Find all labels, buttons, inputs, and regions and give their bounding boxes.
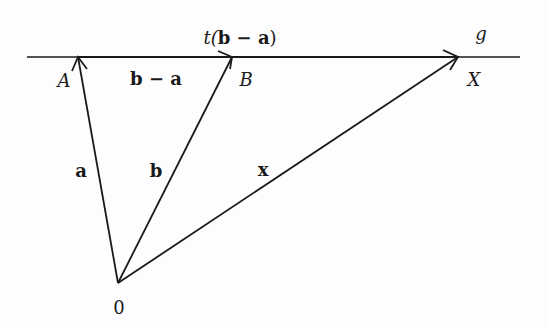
arrowhead-x-icon — [443, 50, 458, 70]
label-point-b: B — [239, 71, 252, 89]
label-vector-a: a — [75, 162, 87, 180]
label-origin: 0 — [113, 299, 124, 317]
vector-diagram: t(b − a) g A b − a B X a b x 0 — [0, 0, 549, 328]
label-t-body: b − a — [218, 27, 270, 48]
label-vector-x: x — [258, 161, 269, 179]
label-g: g — [475, 25, 487, 43]
label-t-prefix: t( — [203, 27, 217, 48]
vector-b — [118, 57, 232, 283]
label-point-a: A — [58, 72, 71, 90]
label-b-minus-a: b − a — [130, 70, 182, 88]
label-t-suffix: ) — [270, 27, 277, 48]
vector-x — [118, 57, 458, 283]
label-t-b-minus-a: t(b − a) — [203, 29, 276, 47]
label-vector-b: b — [150, 162, 163, 180]
label-point-x: X — [468, 71, 481, 89]
